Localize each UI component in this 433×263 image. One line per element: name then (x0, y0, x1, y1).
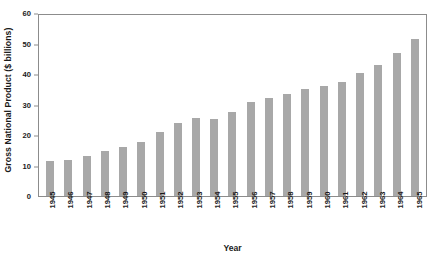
x-axis-tick-1963: 1963 (379, 192, 387, 209)
bar-cell (77, 15, 95, 196)
x-axis-tick-1950: 1950 (141, 192, 149, 209)
bar-cell (406, 15, 424, 196)
y-axis-title-text: Gross National Product ($ billions) (3, 28, 13, 173)
x-axis-tick-1946: 1946 (67, 192, 75, 209)
y-axis-tick-labels: 0102030405060 (14, 14, 34, 197)
bar-1947 (83, 156, 91, 196)
bar-1961 (338, 82, 346, 196)
x-tick-cell: 1955 (223, 198, 241, 238)
x-axis-tick-1952: 1952 (177, 192, 185, 209)
y-axis-tick-50: 50 (23, 41, 31, 49)
bar-1958 (283, 94, 291, 196)
x-tick-cell: 1954 (205, 198, 223, 238)
bar-cell (169, 15, 187, 196)
bar-cell (114, 15, 132, 196)
bar-1952 (174, 123, 182, 196)
bar-1959 (301, 89, 309, 196)
x-axis-tick-1959: 1959 (306, 192, 314, 209)
bar-cell (315, 15, 333, 196)
bar-1965 (411, 39, 419, 196)
bar-1960 (320, 86, 328, 196)
bar-cell (132, 15, 150, 196)
x-tick-cell: 1952 (168, 198, 186, 238)
bar-1956 (247, 102, 255, 196)
bar-cell (278, 15, 296, 196)
x-axis-tick-1945: 1945 (49, 192, 57, 209)
x-tick-cell: 1951 (150, 198, 168, 238)
bar-cell (187, 15, 205, 196)
bar-cell (296, 15, 314, 196)
x-axis-tick-1948: 1948 (104, 192, 112, 209)
bar-1962 (356, 73, 364, 196)
x-axis-tick-labels: 1945194619471948194919501951195219531954… (38, 198, 427, 238)
x-tick-cell: 1962 (352, 198, 370, 238)
bar-1951 (156, 132, 164, 196)
bar-1957 (265, 98, 273, 196)
x-axis-tick-1953: 1953 (196, 192, 204, 209)
x-tick-cell: 1945 (40, 198, 58, 238)
bar-cell (150, 15, 168, 196)
y-axis-tick-0: 0 (27, 193, 31, 201)
x-tick-cell: 1947 (77, 198, 95, 238)
x-tick-cell: 1950 (132, 198, 150, 238)
bar-cell (96, 15, 114, 196)
bar-cell (387, 15, 405, 196)
bar-1949 (119, 147, 127, 196)
x-axis-tick-1956: 1956 (251, 192, 259, 209)
bar-cell (369, 15, 387, 196)
y-axis-tick-10: 10 (23, 163, 31, 171)
x-axis-tick-1954: 1954 (214, 192, 222, 209)
plot-area (38, 14, 427, 197)
x-tick-cell: 1964 (388, 198, 406, 238)
y-axis-tick-30: 30 (23, 102, 31, 110)
x-tick-cell: 1961 (333, 198, 351, 238)
x-tick-cell: 1957 (260, 198, 278, 238)
x-axis-tick-1965: 1965 (416, 192, 424, 209)
x-axis-tick-1958: 1958 (287, 192, 295, 209)
y-axis-tick-20: 20 (23, 132, 31, 140)
x-tick-cell: 1965 (407, 198, 425, 238)
bar-cell (223, 15, 241, 196)
x-axis-tick-1955: 1955 (232, 192, 240, 209)
x-tick-cell: 1963 (370, 198, 388, 238)
bar-1954 (210, 119, 218, 196)
x-tick-cell: 1956 (242, 198, 260, 238)
x-tick-cell: 1960 (315, 198, 333, 238)
bar-cell (205, 15, 223, 196)
bar-cell (333, 15, 351, 196)
x-axis-title: Year (38, 243, 427, 253)
x-axis-tick-1960: 1960 (324, 192, 332, 209)
bar-1963 (374, 65, 382, 196)
x-axis-tick-1957: 1957 (269, 192, 277, 209)
x-axis-tick-1951: 1951 (159, 192, 167, 209)
x-axis-tick-1962: 1962 (361, 192, 369, 209)
bar-chart: Gross National Product ($ billions) 0102… (0, 0, 433, 263)
bar-cell (41, 15, 59, 196)
bar-cell (351, 15, 369, 196)
bar-1955 (228, 112, 236, 196)
y-axis-tick-60: 60 (23, 10, 31, 18)
bar-1964 (393, 53, 401, 196)
x-axis-tick-1947: 1947 (86, 192, 94, 209)
x-axis-tick-1964: 1964 (397, 192, 405, 209)
x-tick-cell: 1946 (58, 198, 76, 238)
bar-cell (59, 15, 77, 196)
bar-cell (242, 15, 260, 196)
x-axis-tick-1961: 1961 (342, 192, 350, 209)
x-tick-cell: 1953 (187, 198, 205, 238)
x-tick-cell: 1958 (278, 198, 296, 238)
bar-series (39, 15, 426, 196)
x-tick-cell: 1948 (95, 198, 113, 238)
bar-cell (260, 15, 278, 196)
x-axis-tick-1949: 1949 (122, 192, 130, 209)
x-tick-cell: 1949 (113, 198, 131, 238)
x-tick-cell: 1959 (297, 198, 315, 238)
bar-1953 (192, 118, 200, 196)
y-axis-tick-40: 40 (23, 71, 31, 79)
bar-1948 (101, 151, 109, 196)
bar-1950 (137, 142, 145, 196)
